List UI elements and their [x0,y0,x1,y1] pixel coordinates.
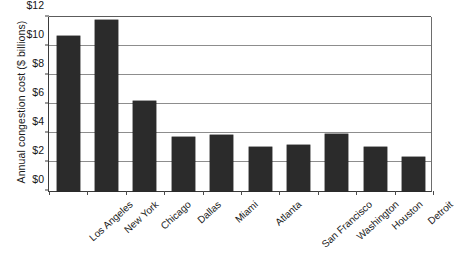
y-axis-title: Annual congestion cost ($ billions) [15,7,27,197]
y-axis-tick-label: $12 [26,0,44,11]
x-axis-tick-label: Dallas [195,199,223,226]
x-axis-tick-mark [49,191,50,195]
bar[interactable] [364,147,387,191]
bar[interactable] [95,20,118,191]
x-axis-tick-mark [433,191,434,195]
x-axis-tick-label: Chicago [159,199,194,232]
x-axis-tick-mark [203,191,204,195]
x-axis-tick-mark [126,191,127,195]
bar-slot [356,17,394,191]
bar-slot [203,17,241,191]
bar[interactable] [402,157,425,191]
bar-slot [87,17,125,191]
x-axis-tick-label-wrap: Atlanta [273,199,304,228]
bar[interactable] [325,134,348,191]
x-axis-tick-label: Detroit [426,199,455,227]
x-axis-tick-label-wrap: Dallas [195,199,223,226]
bar-slot [395,17,433,191]
bar-slot [126,17,164,191]
x-axis-tick-mark [164,191,165,195]
x-axis-tick-label-wrap: Chicago [159,199,194,232]
bar[interactable] [210,135,233,191]
bar[interactable] [287,145,310,191]
y-axis-tick-label: $4 [32,115,44,127]
y-axis-tick-label: $8 [32,57,44,69]
x-axis-tick-mark [318,191,319,195]
y-axis-tick-label: $0 [32,173,44,185]
x-axis-tick-mark [87,191,88,195]
bar-series [49,17,431,191]
bar[interactable] [172,137,195,191]
bar-slot [164,17,202,191]
x-axis-tick-label-wrap: Miami [233,199,260,225]
bar-slot [318,17,356,191]
x-axis-tick-label: Miami [233,199,260,225]
x-axis-tick-mark [356,191,357,195]
y-axis-tick-label: $6 [32,86,44,98]
bar[interactable] [57,36,80,191]
x-axis-tick-mark [395,191,396,195]
x-axis-tick-label: Atlanta [273,199,304,228]
y-axis-tick-label: $10 [26,28,44,40]
bar-slot [279,17,317,191]
x-axis-tick-mark [279,191,280,195]
x-axis-tick-label-wrap: Detroit [426,199,455,227]
bar[interactable] [133,101,156,191]
y-axis-tick-label: $2 [32,144,44,156]
x-axis-tick-labels: Los AngelesNew YorkChicagoDallasMiamiAtl… [48,196,432,261]
bar-slot [49,17,87,191]
plot-area: $0$2$4$6$8$10$12 [48,17,432,192]
bar-slot [241,17,279,191]
x-axis-tick-mark [241,191,242,195]
bar[interactable] [249,147,272,191]
